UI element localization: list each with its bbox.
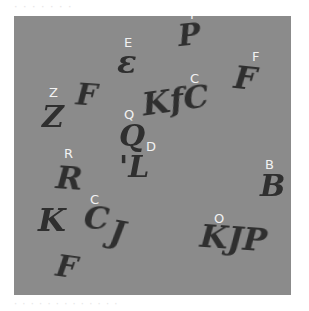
script-glyph: Q [119,121,145,151]
glyph-label: Q [124,108,134,121]
script-glyph: 'L [119,152,149,182]
glyph-label: F [252,50,259,63]
script-glyph: J [107,215,127,249]
glyph-label: Z [49,86,58,99]
glyph-label: O [214,212,224,225]
bottom-cutoff-text: · · · · · · · · · · · · · [14,298,291,311]
script-glyph: F [54,251,79,284]
glyph-label: E [124,36,132,49]
glyph-label: C [90,193,99,206]
script-glyph: ε [117,46,136,78]
script-glyph: Z [42,102,64,132]
script-glyph: R [55,161,84,195]
glyph-label: D [146,140,156,153]
glyph-label: B [265,158,274,171]
script-glyph: KJP [199,220,268,257]
script-glyph: F [75,79,98,110]
script-glyph: F [232,61,258,95]
script-glyph: P [176,19,202,51]
captcha-canvas[interactable]: PεFFZKfCQ'LRBKCJKJPFPEFCZQDRBCO [14,16,291,295]
glyph-label: R [64,147,73,160]
script-glyph: KfC [140,79,211,120]
glyph-label: P [190,16,198,21]
script-glyph: K [38,204,66,236]
script-glyph: B [260,171,285,201]
glyph-label: C [190,72,199,85]
top-cutoff-text: · · · · · · · [14,0,291,14]
